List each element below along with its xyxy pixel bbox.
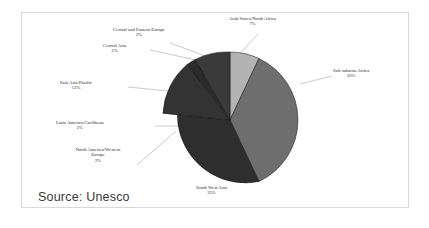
pie-label-north-america-western-europe-pct: 2% [62, 158, 134, 163]
pie-label-sub-saharan-africa-name: Sub-saharan Africa [333, 68, 369, 73]
source-note: Source: Unesco [38, 190, 130, 204]
pie-label-south-west-asia-name: South West Asia [196, 185, 227, 190]
pie-label-east-asia-pacific-name: East Asia/Pacific [60, 80, 92, 85]
pie-slices [163, 52, 298, 183]
leader-line-subsaharan [300, 76, 332, 84]
pie-label-central-and-eastern-europe-pct: 3% [113, 32, 165, 37]
pie-label-central-and-eastern-europe: Central and Eastern Europe 3% [113, 27, 165, 38]
pie-label-arab-states-north-africa: Arab States/North Africa 7% [229, 16, 276, 27]
pie-label-central-asia-name: Central Asia [103, 43, 126, 48]
pie-label-east-asia-pacific: East Asia/Pacific 13% [60, 80, 92, 91]
pie-label-south-west-asia-pct: 35% [196, 190, 227, 195]
pie-label-north-america-western-europe-name: North America/Western [76, 147, 121, 152]
pie-label-latin-america-caribbean: Latin America/Caribbean 2% [56, 120, 104, 131]
pie-label-central-asia-pct: 2% [103, 48, 126, 53]
pie-label-latin-america-caribbean-name: Latin America/Caribbean [56, 120, 104, 125]
pie-label-north-america-western-europe: North America/Western Europe 2% [62, 147, 134, 163]
pie-label-central-asia: Central Asia 2% [103, 43, 126, 54]
pie-label-central-and-eastern-europe-name: Central and Eastern Europe [113, 27, 165, 32]
pie-label-sub-saharan-africa: Sub-saharan Africa 36% [333, 68, 369, 79]
leader-line-cee [170, 43, 208, 57]
pie-label-east-asia-pacific-pct: 13% [60, 85, 92, 90]
pie-label-arab-states-north-africa-pct: 7% [229, 21, 276, 26]
pie-label-latin-america-caribbean-pct: 2% [56, 125, 104, 130]
pie-label-south-west-asia: South West Asia 35% [196, 185, 227, 196]
pie-label-sub-saharan-africa-pct: 36% [333, 73, 369, 78]
pie-label-arab-states-north-africa-name: Arab States/North Africa [229, 16, 276, 21]
chart-page: Arab States/North Africa 7% Sub-saharan … [0, 0, 429, 228]
leader-line-north-am [137, 131, 176, 165]
